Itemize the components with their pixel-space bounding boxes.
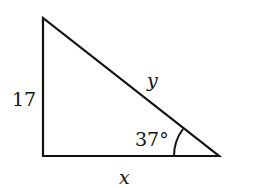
angle-arc: [174, 129, 183, 156]
bottom-side-label: x: [119, 166, 130, 188]
left-side-label: 17: [12, 88, 36, 110]
triangle-diagram: 17 y 37° x: [0, 0, 253, 188]
angle-label: 37°: [135, 128, 169, 150]
right-triangle: [43, 18, 219, 156]
hypotenuse-label: y: [146, 69, 158, 91]
